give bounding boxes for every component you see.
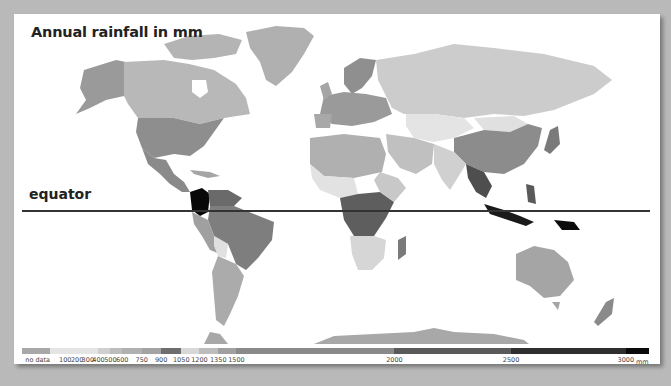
world-map xyxy=(14,14,660,344)
legend-tick-label: 1050 xyxy=(173,356,190,364)
legend-bin xyxy=(181,348,199,354)
region-iberia xyxy=(314,114,332,128)
region-alaska xyxy=(76,60,126,114)
legend-tick-label: 2000 xyxy=(386,356,403,364)
region-australia xyxy=(516,246,574,298)
region-colombia xyxy=(190,188,210,216)
legend-bin xyxy=(236,348,394,354)
legend-tick-label: 500 xyxy=(104,356,116,364)
region-greenland xyxy=(246,26,314,86)
region-philippines xyxy=(526,184,536,204)
region-north-africa xyxy=(310,134,386,178)
legend-tick-label: 2500 xyxy=(503,356,520,364)
region-central-africa xyxy=(340,192,394,236)
region-madagascar xyxy=(398,236,406,260)
legend-bin xyxy=(50,348,98,354)
legend-bin xyxy=(626,348,649,354)
region-indonesia xyxy=(484,204,534,226)
region-venezuela xyxy=(208,190,242,206)
legend-color-scale xyxy=(22,348,649,354)
legend-bin xyxy=(161,348,181,354)
region-antarctica xyxy=(204,328,529,344)
legend-bin xyxy=(122,348,141,354)
map-title: Annual rainfall in mm xyxy=(31,24,203,40)
legend-tick-label: 1200 xyxy=(191,356,208,364)
legend-bin xyxy=(110,348,122,354)
region-southern-africa xyxy=(350,236,386,270)
region-japan xyxy=(544,126,560,154)
legend-bin xyxy=(98,348,110,354)
legend-bin xyxy=(218,348,236,354)
region-argentina xyxy=(212,256,244,326)
region-canada xyxy=(124,60,250,124)
legend-unit: mm xyxy=(636,358,649,366)
legend-bin xyxy=(22,348,50,354)
region-caribbean xyxy=(190,170,220,178)
region-tasmania xyxy=(552,302,560,310)
region-new-zealand xyxy=(594,298,614,326)
legend-bin xyxy=(199,348,218,354)
equator-line xyxy=(22,210,650,212)
legend-tick-label: 1500 xyxy=(228,356,245,364)
legend-tick-label: 750 xyxy=(136,356,148,364)
legend-tick-label: 100 xyxy=(59,356,71,364)
legend-bin xyxy=(394,348,511,354)
region-scandinavia xyxy=(344,58,376,94)
legend-tick-label: 1350 xyxy=(210,356,227,364)
legend-bin xyxy=(511,348,626,354)
legend-bin xyxy=(142,348,161,354)
region-usa xyxy=(136,118,224,158)
map-card: Annual rainfall in mm equator no data100… xyxy=(14,14,660,364)
region-png xyxy=(554,220,580,230)
legend-tick-label: 3000 xyxy=(618,356,635,364)
equator-label: equator xyxy=(29,186,91,202)
legend-tick-label: no data xyxy=(25,356,50,364)
legend-tick-label: 600 xyxy=(116,356,128,364)
legend-tick-labels: no data100200300400500600750900105012001… xyxy=(14,356,660,366)
legend-tick-label: 900 xyxy=(155,356,167,364)
region-russia xyxy=(376,44,612,118)
legend-tick-label: 400 xyxy=(92,356,104,364)
